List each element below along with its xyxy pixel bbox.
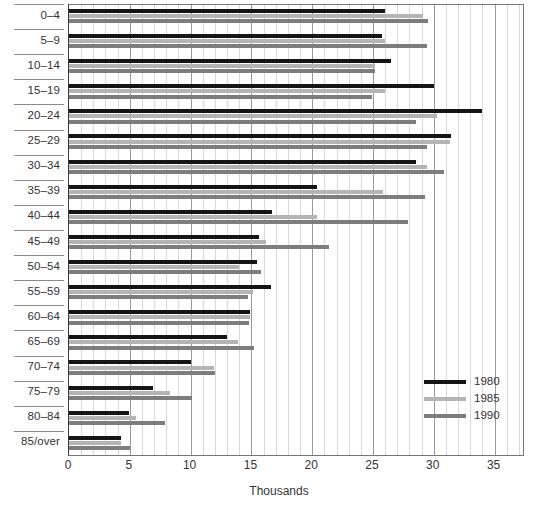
category-separator: [14, 130, 64, 131]
bar-1985-7579: [69, 391, 170, 395]
bar-1990-4549: [69, 245, 329, 249]
legend-item: 1990: [424, 408, 520, 425]
category-label: 45–49: [0, 235, 64, 247]
bar-1990-5559: [69, 295, 248, 299]
category-label: 60–64: [0, 310, 64, 322]
bar-group: [69, 256, 523, 281]
bar-1990-04: [69, 19, 428, 23]
category-label-text: 15–19: [28, 84, 64, 96]
bar-1990-7074: [69, 371, 215, 375]
bar-1985-4044: [69, 215, 317, 219]
category-label: 40–44: [0, 209, 64, 221]
bar-1980-7579: [69, 386, 153, 390]
bar-1980-8084: [69, 411, 129, 415]
bar-1990-3034: [69, 170, 444, 174]
bar-1985-1014: [69, 64, 375, 68]
bar-group: [69, 231, 523, 256]
population-bar-chart: 0–45–910–1415–1920–2425–2930–3435–3940–4…: [0, 0, 536, 505]
bar-group: [69, 55, 523, 80]
category-separator: [14, 29, 64, 30]
bar-group: [69, 432, 523, 456]
category-label-text: 30–34: [28, 159, 64, 171]
bar-1980-5054: [69, 260, 257, 264]
category-axis: 0–45–910–1415–1920–2425–2930–3435–3940–4…: [0, 4, 64, 456]
category-separator: [14, 356, 64, 357]
bar-group: [69, 306, 523, 331]
category-separator: [14, 431, 64, 432]
bar-1990-4044: [69, 220, 408, 224]
bar-1980-2529: [69, 134, 451, 138]
bar-1990-1014: [69, 69, 375, 73]
category-label: 35–39: [0, 184, 64, 196]
category-label-text: 25–29: [28, 134, 64, 146]
bar-1990-1519: [69, 95, 372, 99]
x-tick-label: 15: [244, 458, 257, 472]
bar-1980-1014: [69, 59, 391, 63]
value-axis-ticks: 05101520253035: [68, 458, 524, 478]
x-tick-label: 35: [487, 458, 500, 472]
category-label-text: 0–4: [41, 9, 65, 21]
bar-1985-5559: [69, 290, 253, 294]
bar-1985-4549: [69, 240, 266, 244]
bar-1980-7074: [69, 360, 191, 364]
bar-group: [69, 206, 523, 231]
bar-1990-59: [69, 44, 427, 48]
bar-1985-3539: [69, 190, 383, 194]
bar-1980-6569: [69, 335, 227, 339]
x-tick-label: 5: [125, 458, 132, 472]
category-label-text: 60–64: [28, 310, 64, 322]
bar-1985-6064: [69, 315, 250, 319]
x-tick-label: 20: [305, 458, 318, 472]
bar-1990-3539: [69, 195, 425, 199]
legend-label-1985: 1985: [474, 391, 500, 406]
category-label: 5–9: [0, 34, 64, 46]
bar-1980-4549: [69, 235, 259, 239]
category-label-text: 65–69: [28, 335, 64, 347]
category-label: 0–4: [0, 9, 64, 21]
bar-1985-8084: [69, 416, 136, 420]
category-separator: [14, 406, 64, 407]
bar-group: [69, 30, 523, 55]
category-label: 20–24: [0, 109, 64, 121]
category-separator: [14, 330, 64, 331]
chart-legend: 198019851990: [424, 374, 520, 425]
legend-item: 1985: [424, 391, 520, 408]
category-label-text: 50–54: [28, 260, 64, 272]
legend-swatch-1990: [424, 414, 466, 418]
bar-1990-6064: [69, 321, 249, 325]
category-label-text: 35–39: [28, 184, 64, 196]
category-separator: [14, 280, 64, 281]
bar-1980-5559: [69, 285, 271, 289]
category-separator: [14, 205, 64, 206]
category-label-text: 10–14: [28, 59, 64, 71]
legend-label-1990: 1990: [474, 408, 500, 423]
x-axis-title-label: Thousands: [249, 484, 308, 498]
bar-1980-59: [69, 34, 382, 38]
category-label-text: 85/over: [21, 435, 64, 447]
category-label-text: 75–79: [28, 385, 64, 397]
bar-group: [69, 331, 523, 356]
category-separator: [14, 305, 64, 306]
category-separator: [14, 381, 64, 382]
category-label-text: 70–74: [28, 360, 64, 372]
bar-1985-6569: [69, 340, 238, 344]
category-label: 10–14: [0, 59, 64, 71]
bar-1990-85over: [69, 446, 130, 450]
bar-1985-1519: [69, 89, 385, 93]
bar-1990-8084: [69, 421, 165, 425]
bar-1985-59: [69, 39, 385, 43]
category-separator: [14, 255, 64, 256]
category-separator: [14, 180, 64, 181]
bar-1980-2024: [69, 109, 482, 113]
bar-group: [69, 105, 523, 130]
category-separator: [14, 54, 64, 55]
bar-group: [69, 5, 523, 30]
legend-swatch-1985: [424, 397, 466, 401]
bar-1985-85over: [69, 441, 121, 445]
category-separator: [14, 104, 64, 105]
bar-1980-6064: [69, 310, 250, 314]
category-label: 55–59: [0, 285, 64, 297]
bar-1980-3034: [69, 160, 416, 164]
category-label-text: 5–9: [41, 34, 65, 46]
category-label: 75–79: [0, 385, 64, 397]
